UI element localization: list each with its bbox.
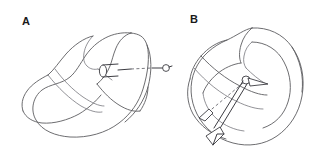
arrow-shaft-dashed [131,68,152,69]
panel-a-label: A [22,15,30,27]
arrow-shaft-edge-2 [214,81,243,128]
arrow-head-ring-icon [163,65,172,72]
arrow-head-right [248,78,268,86]
panel-b-label: B [190,13,198,25]
figure-root: A [0,0,328,158]
panel-a-shape [22,33,151,137]
panel-b-vector-arrow [199,76,268,145]
arrow-head-upper-left [199,109,213,121]
arrow-tail-cylinder-icon [99,64,118,77]
panel-b: B [188,13,304,145]
arrow-shaft-solid [118,69,131,70]
panel-a: A [22,15,172,137]
arrow-dashed-reference [206,83,243,114]
figure-canvas: A [0,0,328,158]
